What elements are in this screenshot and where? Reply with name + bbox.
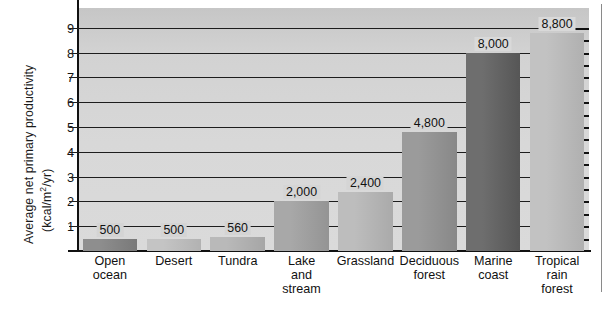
x-category-label-line: Open bbox=[78, 254, 142, 268]
bar-value-label: 8,800 bbox=[539, 17, 576, 31]
x-category-label: Tundra bbox=[206, 254, 270, 268]
y-tick-mark bbox=[69, 226, 78, 227]
y-tick-mark bbox=[69, 127, 78, 128]
bar: 8,000 bbox=[466, 53, 521, 251]
y-tick-mark bbox=[69, 201, 78, 202]
bar-value-label: 4,800 bbox=[411, 116, 448, 130]
x-category-label: Marinecoast bbox=[461, 254, 525, 282]
x-category-label: Lakeandstream bbox=[270, 254, 334, 297]
x-category-label-line: Tundra bbox=[206, 254, 270, 268]
x-category-label-line: Tropical bbox=[525, 254, 589, 268]
x-category-label-line: forest bbox=[525, 282, 589, 296]
x-category-label-line: and bbox=[270, 268, 334, 282]
y-units-superscript: 2 bbox=[38, 187, 48, 192]
bar: 500 bbox=[147, 239, 202, 251]
x-category-label-line: Deciduous bbox=[397, 254, 461, 268]
x-category-label-line: rain bbox=[525, 268, 589, 282]
x-category-label-line: ocean bbox=[78, 268, 142, 282]
x-category-label-line: Desert bbox=[142, 254, 206, 268]
x-category-label-line: Marine bbox=[461, 254, 525, 268]
page-right-rule bbox=[601, 4, 602, 292]
plot-inner: 5005005602,0002,4004,8008,0008,800 bbox=[78, 8, 589, 251]
y-axis-spine bbox=[77, 0, 79, 251]
x-category-label-line: Lake bbox=[270, 254, 334, 268]
bar: 2,400 bbox=[338, 192, 393, 252]
chart-figure: Average net primary productivity (kcal/m… bbox=[0, 0, 614, 315]
y-tick-mark bbox=[69, 102, 78, 103]
x-category-label-line: Grassland bbox=[334, 254, 398, 268]
bar: 4,800 bbox=[402, 132, 457, 251]
x-category-label: Deciduousforest bbox=[397, 254, 461, 282]
bar-value-label: 500 bbox=[97, 223, 124, 237]
y-tick-mark bbox=[69, 177, 78, 178]
bar: 2,000 bbox=[274, 201, 329, 251]
x-category-label: Desert bbox=[142, 254, 206, 268]
y-tick-mark bbox=[69, 28, 78, 29]
bar: 500 bbox=[83, 239, 138, 251]
x-axis-category-labels: OpenoceanDesertTundraLakeandstreamGrassl… bbox=[78, 254, 589, 312]
y-tick-mark bbox=[69, 152, 78, 153]
bar-value-label: 2,400 bbox=[347, 176, 384, 190]
y-axis-label: Average net primary productivity bbox=[22, 65, 36, 244]
bar-value-label: 2,000 bbox=[283, 185, 320, 199]
bar-value-label: 560 bbox=[224, 221, 251, 235]
x-category-label-line: coast bbox=[461, 268, 525, 282]
bar-value-label: 500 bbox=[160, 223, 187, 237]
y-tick-mark bbox=[69, 77, 78, 78]
y-axis-tick-labels: 123456789 bbox=[52, 0, 74, 252]
y-tick-mark bbox=[69, 53, 78, 54]
gridline bbox=[78, 28, 589, 29]
bar: 560 bbox=[210, 237, 265, 251]
bar: 8,800 bbox=[530, 33, 585, 251]
x-category-label-line: forest bbox=[397, 268, 461, 282]
x-category-label: Openocean bbox=[78, 254, 142, 282]
bar-value-label: 8,000 bbox=[475, 37, 512, 51]
x-category-label-line: stream bbox=[270, 282, 334, 296]
plot-area: 5005005602,0002,4004,8008,0008,800 bbox=[78, 8, 589, 251]
x-category-label: Grassland bbox=[334, 254, 398, 268]
x-category-label: Tropicalrainforest bbox=[525, 254, 589, 297]
